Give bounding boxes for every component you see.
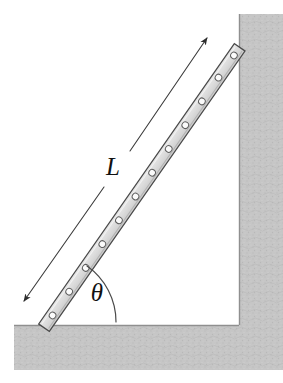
- floor: [14, 325, 283, 370]
- wall: [239, 14, 283, 370]
- angle-label: θ: [91, 279, 103, 306]
- physics-figure-ladder-against-wall: L θ: [0, 0, 283, 383]
- figure-canvas: L θ: [0, 0, 283, 383]
- length-label: L: [105, 153, 120, 180]
